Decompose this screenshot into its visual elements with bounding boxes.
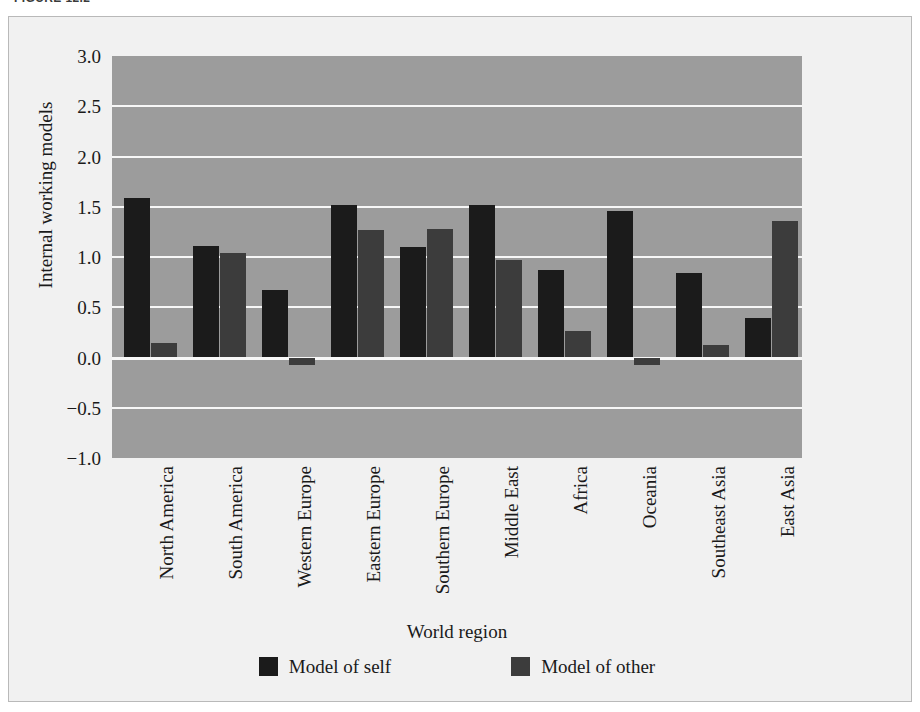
x-tick-label: Africa [570, 466, 589, 515]
bar[interactable] [607, 211, 633, 358]
bar[interactable] [262, 290, 288, 357]
y-tick-label: 0.0 [77, 348, 101, 367]
x-tick-cell: Oceania [595, 458, 664, 618]
bar[interactable] [703, 345, 729, 357]
bar-group [319, 56, 388, 458]
bar-group [457, 56, 526, 458]
x-tick-cell: Southeast Asia [664, 458, 733, 618]
x-tick-label: East Asia [777, 466, 796, 537]
figure-frame: Internal working models 3.02.52.01.51.00… [8, 16, 912, 702]
x-tick-cell: East Asia [733, 458, 802, 618]
bar-group [181, 56, 250, 458]
legend-item[interactable]: Model of self [259, 657, 391, 676]
x-tick-cell: Africa [526, 458, 595, 618]
y-tick-label: 0.5 [77, 298, 101, 317]
bar-chart: Internal working models 3.02.52.01.51.00… [9, 17, 913, 703]
x-tick-label: Eastern Europe [363, 466, 382, 583]
x-tick-label: Western Europe [294, 466, 313, 587]
bar-group [526, 56, 595, 458]
x-tick-label: Oceania [639, 466, 658, 528]
bar[interactable] [469, 205, 495, 358]
bar-group [733, 56, 802, 458]
bar-group [250, 56, 319, 458]
x-axis-title: World region [112, 621, 802, 643]
x-tick-cell: Southern Europe [388, 458, 457, 618]
bar[interactable] [220, 253, 246, 358]
bar[interactable] [772, 221, 798, 358]
y-tick-label: −0.5 [67, 398, 101, 417]
x-axis-tick-labels: North AmericaSouth AmericaWestern Europe… [112, 458, 802, 618]
chart-legend: Model of selfModel of other [112, 657, 802, 676]
bar-groups [112, 56, 802, 458]
bar[interactable] [427, 229, 453, 358]
y-tick-label: 1.5 [77, 197, 101, 216]
bar[interactable] [124, 198, 150, 358]
y-tick-label: −1.0 [67, 449, 101, 468]
bar[interactable] [358, 230, 384, 358]
bar[interactable] [193, 246, 219, 358]
x-tick-cell: South America [181, 458, 250, 618]
x-tick-label: North America [156, 466, 175, 579]
x-tick-label: South America [225, 466, 244, 579]
bar[interactable] [400, 247, 426, 358]
bar-group [388, 56, 457, 458]
x-tick-cell: Middle East [457, 458, 526, 618]
bar[interactable] [565, 331, 591, 357]
bar[interactable] [538, 270, 564, 357]
bar[interactable] [151, 343, 177, 357]
plot-area [112, 56, 802, 458]
x-tick-label: Middle East [501, 466, 520, 558]
bar-group [112, 56, 181, 458]
legend-swatch-icon [259, 657, 278, 676]
y-tick-label: 2.5 [77, 97, 101, 116]
bar-group [664, 56, 733, 458]
x-tick-label: Southeast Asia [708, 466, 727, 578]
bar[interactable] [496, 260, 522, 357]
bar-group [595, 56, 664, 458]
legend-label: Model of other [541, 657, 655, 676]
x-tick-label: Southern Europe [432, 466, 451, 594]
legend-swatch-icon [511, 657, 530, 676]
x-tick-cell: Eastern Europe [319, 458, 388, 618]
y-tick-label: 3.0 [77, 47, 101, 66]
x-tick-cell: North America [112, 458, 181, 618]
bar[interactable] [634, 358, 660, 365]
legend-label: Model of self [289, 657, 391, 676]
bar[interactable] [331, 205, 357, 358]
bar[interactable] [289, 358, 315, 365]
y-tick-label: 1.0 [77, 248, 101, 267]
legend-item[interactable]: Model of other [511, 657, 655, 676]
bar[interactable] [676, 273, 702, 357]
x-tick-cell: Western Europe [250, 458, 319, 618]
y-tick-label: 2.0 [77, 147, 101, 166]
figure-caption: FIGURE 12.2 [14, 0, 90, 5]
bar[interactable] [745, 318, 771, 357]
y-axis-tick-labels: 3.02.52.01.51.00.50.0−0.5−1.0 [39, 56, 101, 458]
